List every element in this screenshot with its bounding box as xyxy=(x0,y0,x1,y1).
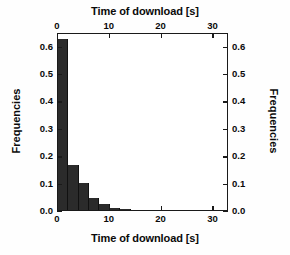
y-tick-label-right: 0.5 xyxy=(232,68,272,79)
histogram-bar xyxy=(68,165,78,210)
x-tick-top xyxy=(109,33,110,38)
y-tick-label-left: 0.2 xyxy=(13,150,53,161)
y-tick-right xyxy=(223,101,228,102)
y-tick-left xyxy=(57,129,62,130)
y-tick-left xyxy=(57,156,62,157)
bars-container xyxy=(58,34,227,210)
bottom-axis-title: Time of download [s] xyxy=(0,232,290,244)
top-axis-title: Time of download [s] xyxy=(0,5,290,17)
y-tick-label-left: 0.1 xyxy=(13,178,53,189)
y-tick-label-left: 0.4 xyxy=(13,95,53,106)
x-tick-bottom xyxy=(161,206,162,211)
x-tick-label-top: 0 xyxy=(37,20,77,31)
y-tick-right xyxy=(223,156,228,157)
y-tick-left xyxy=(57,74,62,75)
x-tick-label-top: 10 xyxy=(89,20,129,31)
y-tick-label-left: 0.3 xyxy=(13,123,53,134)
x-tick-label-bottom: 30 xyxy=(192,213,232,224)
histogram-bar xyxy=(79,183,89,210)
x-tick-label-top: 20 xyxy=(141,20,181,31)
y-tick-right xyxy=(223,129,228,130)
histogram-figure: Time of download [s] Time of download [s… xyxy=(0,0,290,255)
y-tick-label-right: 0.4 xyxy=(232,95,272,106)
x-tick-bottom xyxy=(212,206,213,211)
y-tick-label-right: 0.1 xyxy=(232,178,272,189)
y-tick-label-left: 0.0 xyxy=(13,205,53,216)
x-tick-top xyxy=(57,33,58,38)
x-tick-top xyxy=(161,33,162,38)
x-tick-label-bottom: 10 xyxy=(89,213,129,224)
x-tick-label-top: 30 xyxy=(192,20,232,31)
y-tick-label-left: 0.5 xyxy=(13,68,53,79)
y-tick-right xyxy=(223,74,228,75)
y-tick-left xyxy=(57,184,62,185)
y-tick-left xyxy=(57,47,62,48)
y-tick-label-right: 0.3 xyxy=(232,123,272,134)
x-tick-top xyxy=(212,33,213,38)
y-tick-label-right: 0.0 xyxy=(232,205,272,216)
x-tick-label-bottom: 20 xyxy=(141,213,181,224)
y-tick-left xyxy=(57,101,62,102)
y-tick-label-right: 0.6 xyxy=(232,41,272,52)
y-tick-label-right: 0.2 xyxy=(232,150,272,161)
histogram-bar xyxy=(120,209,130,210)
x-tick-bottom xyxy=(109,206,110,211)
y-tick-label-left: 0.6 xyxy=(13,41,53,52)
plot-area xyxy=(57,33,228,211)
y-tick-right xyxy=(223,184,228,185)
histogram-bar xyxy=(110,208,120,210)
histogram-bar xyxy=(89,198,99,210)
y-tick-right xyxy=(223,47,228,48)
